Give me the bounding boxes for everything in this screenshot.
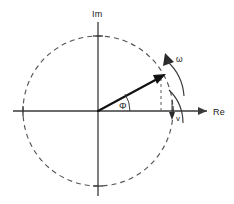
angular-velocity-label-omega: ω	[176, 54, 183, 64]
phasor-diagram-canvas: Im Re Φ ω v	[0, 0, 234, 204]
rotation-arrowhead-icon	[163, 53, 174, 66]
phasor-diagram-figure: Im Re Φ ω v	[0, 0, 234, 204]
velocity-arrowhead-icon	[169, 112, 175, 120]
phasor-arrowhead-icon	[153, 74, 166, 84]
right-arrow-icon	[198, 107, 207, 115]
imaginary-axis-label: Im	[92, 9, 103, 19]
velocity-label: v	[176, 114, 180, 123]
angle-label-phi: Φ	[119, 100, 127, 111]
real-axis-label: Re	[213, 107, 225, 117]
phasor-vector-shaft	[98, 78, 159, 111]
